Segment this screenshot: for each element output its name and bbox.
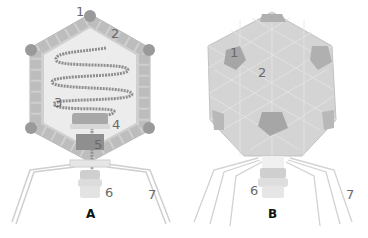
label-b-6: 6 bbox=[250, 184, 258, 197]
tail-sheath-b bbox=[260, 168, 286, 178]
label-a-3: 3 bbox=[54, 96, 62, 109]
label-a-5: 5 bbox=[94, 138, 102, 151]
portal-complex bbox=[72, 113, 108, 125]
panel-label-b: B bbox=[268, 208, 277, 220]
tail-sheath-a bbox=[80, 170, 100, 180]
label-a-4: 4 bbox=[112, 118, 120, 131]
label-a-6: 6 bbox=[105, 186, 113, 199]
label-a-1: 1 bbox=[76, 5, 84, 18]
phage-b-exterior bbox=[194, 12, 352, 226]
label-a-7: 7 bbox=[148, 188, 156, 201]
phage-diagram bbox=[0, 0, 368, 238]
label-a-2: 2 bbox=[111, 27, 119, 40]
phage-a-cross-section bbox=[12, 10, 170, 224]
label-b-2: 2 bbox=[258, 66, 266, 79]
label-b-1: 1 bbox=[230, 46, 238, 59]
penton-vertex bbox=[84, 10, 96, 22]
label-b-7: 7 bbox=[346, 188, 354, 201]
panel-label-a: A bbox=[86, 208, 95, 220]
